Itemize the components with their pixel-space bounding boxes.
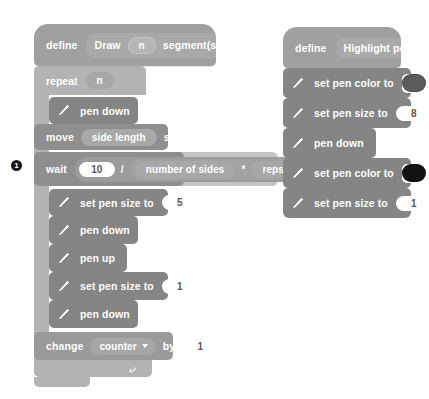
pen-down-block-1[interactable]: pen down	[49, 97, 138, 124]
pen-size-input-1[interactable]: 1	[162, 279, 198, 294]
move-steps-block[interactable]: move side length steps	[34, 124, 168, 150]
loop-arrow-icon: ⤷	[129, 363, 136, 375]
division-symbol: /	[121, 164, 124, 175]
pen-size-input-5[interactable]: 5	[162, 195, 198, 210]
pen-icon	[289, 165, 306, 182]
procedure-prototype-draw[interactable]: Draw n segment(s)	[86, 33, 229, 58]
repeat-block-header[interactable]: repeat n	[34, 66, 146, 95]
repeat-block-footer[interactable]: ⤷	[34, 360, 152, 377]
pen-icon	[55, 102, 72, 119]
multiplication-operator-block[interactable]: number of sides * reps	[130, 159, 300, 180]
pen-icon	[55, 194, 72, 211]
define-keyword-right: define	[295, 42, 327, 54]
pen-up-block[interactable]: pen up	[49, 244, 127, 272]
change-variable-block[interactable]: change counter by 1	[34, 332, 173, 360]
move-label: move	[46, 131, 74, 143]
set-pen-size-block-1[interactable]: set pen size to 1	[49, 272, 168, 300]
pen-icon	[289, 195, 306, 212]
proc-name-part-1: Draw	[95, 39, 121, 51]
define-hat-highlight-point[interactable]: define Highlight point	[283, 27, 401, 68]
pen-down-label-2: pen down	[80, 224, 130, 236]
chevron-down-icon	[142, 344, 148, 348]
step-marker-label: 1	[14, 162, 18, 170]
define-hat-draw[interactable]: define Draw n segment(s)	[34, 24, 216, 66]
set-pen-color-block-1[interactable]: set pen color to	[283, 68, 411, 98]
change-amount-input[interactable]: 1	[182, 339, 218, 354]
set-pen-size-label-1: set pen size to	[80, 280, 154, 292]
pen-icon	[289, 75, 306, 92]
set-pen-size-label-5: set pen size to	[80, 197, 154, 209]
pen-down-block-3[interactable]: pen down	[49, 300, 138, 328]
pen-icon	[289, 105, 306, 122]
wait-numerator-input[interactable]: 10	[79, 162, 115, 177]
set-pen-size-block-right-1[interactable]: set pen size to 1	[283, 188, 411, 218]
pen-down-label-right: pen down	[314, 137, 364, 149]
division-operator-block[interactable]: 10 / number of sides * reps	[75, 157, 304, 182]
pen-down-block-2[interactable]: pen down	[49, 216, 138, 244]
pen-color-swatch-dot-1	[402, 74, 426, 92]
proc-param-n[interactable]: n	[128, 37, 156, 54]
set-pen-color-label-2: set pen color to	[314, 167, 394, 179]
pen-down-label-3: pen down	[80, 308, 130, 320]
by-label: by	[163, 340, 175, 352]
pen-icon	[289, 135, 306, 152]
pen-size-input-right-1[interactable]: 1	[396, 196, 429, 211]
multiplication-symbol: *	[241, 164, 245, 175]
variable-dropdown-label: counter	[99, 341, 136, 352]
repeat-keyword: repeat	[46, 75, 78, 87]
wait-block[interactable]: wait 10 / number of sides * reps seconds	[34, 152, 278, 186]
variable-dropdown-counter[interactable]: counter	[90, 338, 155, 355]
block-workspace[interactable]: 1 define Draw n segment(s) repeat n ⤷ pe…	[0, 0, 429, 399]
repeat-block-bottom-stub	[34, 377, 90, 387]
pen-icon	[55, 306, 72, 323]
pen-down-block-right[interactable]: pen down	[283, 128, 376, 158]
pen-color-swatch-dot-2	[402, 164, 426, 182]
proc-name-part-2: segment(s)	[163, 39, 220, 51]
steps-label: steps	[164, 131, 192, 143]
set-pen-color-label-1: set pen color to	[314, 77, 394, 89]
pen-up-label: pen up	[80, 252, 115, 264]
side-length-reporter[interactable]: side length	[81, 129, 157, 146]
procedure-prototype-highlight-point[interactable]: Highlight point	[335, 38, 429, 58]
number-of-sides-reporter[interactable]: number of sides	[135, 161, 236, 178]
pen-icon	[55, 222, 72, 239]
set-pen-size-label-right-1: set pen size to	[314, 197, 388, 209]
pen-icon	[55, 278, 72, 295]
repeat-times-reporter[interactable]: n	[86, 72, 114, 89]
set-pen-size-label-8: set pen size to	[314, 107, 388, 119]
wait-label: wait	[46, 163, 67, 175]
set-pen-size-block-8[interactable]: set pen size to 8	[283, 98, 411, 128]
pen-color-swatch-1[interactable]	[402, 74, 426, 93]
define-keyword: define	[46, 39, 78, 51]
pen-icon	[55, 250, 72, 267]
set-pen-color-block-2[interactable]: set pen color to	[283, 158, 411, 188]
pen-down-label-1: pen down	[80, 105, 130, 117]
pen-size-input-8[interactable]: 8	[396, 106, 429, 121]
step-marker-1: 1	[11, 160, 22, 171]
set-pen-size-block-5[interactable]: set pen size to 5	[49, 189, 168, 216]
proc-name-highlight-point: Highlight point	[344, 42, 420, 54]
pen-color-swatch-2[interactable]	[402, 164, 426, 183]
change-label: change	[46, 340, 83, 352]
